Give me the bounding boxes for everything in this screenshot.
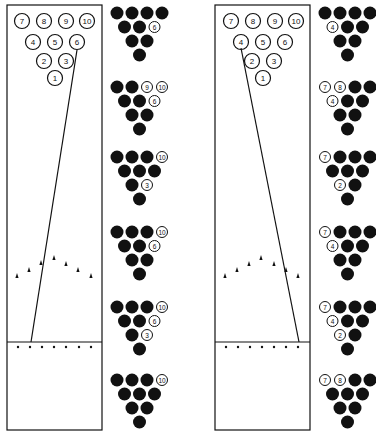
- pin-6: 6: [278, 35, 293, 50]
- standing-pin-number: 8: [338, 84, 342, 91]
- knocked-pin-icon: [126, 329, 139, 342]
- standing-pin-number: 6: [153, 243, 157, 250]
- knocked-pin-icon: [111, 151, 124, 164]
- knocked-pin-icon: [341, 240, 354, 253]
- knocked-pin-icon: [118, 21, 131, 34]
- knocked-pin-icon: [349, 402, 362, 415]
- knocked-pin-icon: [126, 35, 139, 48]
- target-arrow-icon: [247, 261, 250, 266]
- approach-dot-icon: [285, 346, 287, 348]
- knocked-pin-icon: [148, 165, 161, 178]
- knocked-pin-icon: [356, 95, 369, 108]
- lane-outline: [7, 5, 102, 430]
- target-arrow-icon: [76, 267, 79, 272]
- knocked-pin-icon: [118, 165, 131, 178]
- knocked-pin-icon: [356, 315, 369, 328]
- knocked-pin-icon: [341, 193, 354, 206]
- knocked-pin-icon: [133, 343, 146, 356]
- approach-dot-icon: [29, 346, 31, 348]
- standing-pin-number: 7: [323, 84, 327, 91]
- standing-pin-number: 10: [158, 154, 166, 161]
- knocked-pin-icon: [341, 95, 354, 108]
- spare-rack-left-column-3: 103: [111, 151, 168, 206]
- spare-rack-right-column-3: 72: [320, 151, 376, 206]
- pin-number: 2: [42, 57, 47, 66]
- knocked-pin-icon: [111, 7, 124, 20]
- standing-pin-number: 6: [153, 24, 157, 31]
- bowling-spare-diagram: 7891045623178910456231691061031061063104…: [0, 0, 376, 440]
- standing-pin-number: 7: [323, 229, 327, 236]
- knocked-pin-icon: [341, 343, 354, 356]
- standing-pin-number: 3: [145, 332, 149, 339]
- knocked-pin-icon: [133, 123, 146, 136]
- knocked-pin-icon: [126, 301, 139, 314]
- knocked-pin-icon: [349, 35, 362, 48]
- knocked-pin-icon: [334, 254, 347, 267]
- pin-8: 8: [37, 14, 52, 29]
- knocked-pin-icon: [326, 165, 339, 178]
- knocked-pin-icon: [133, 21, 146, 34]
- knocked-pin-icon: [141, 109, 154, 122]
- spare-rack-right-column-1: 4: [319, 7, 376, 62]
- knocked-pin-icon: [349, 81, 362, 94]
- knocked-pin-icon: [141, 7, 154, 20]
- knocked-pin-icon: [349, 151, 362, 164]
- lane-outline: [215, 5, 310, 430]
- knocked-pin-icon: [341, 123, 354, 136]
- approach-dot-icon: [90, 346, 92, 348]
- knocked-pin-icon: [118, 240, 131, 253]
- knocked-pin-icon: [364, 226, 376, 239]
- target-arrow-icon: [272, 261, 275, 266]
- approach-dot-icon: [78, 346, 80, 348]
- pin-2: 2: [245, 54, 260, 69]
- standing-pin-number: 8: [338, 377, 342, 384]
- standing-pin-number: 7: [323, 304, 327, 311]
- knocked-pin-icon: [341, 21, 354, 34]
- knocked-pin-icon: [341, 315, 354, 328]
- knocked-pin-icon: [349, 109, 362, 122]
- pin-number: 3: [64, 57, 69, 66]
- target-arrow-icon: [235, 267, 238, 272]
- spare-rack-right-column-4: 74: [320, 226, 376, 281]
- pin-3: 3: [267, 54, 282, 69]
- standing-pin-number: 4: [331, 318, 335, 325]
- approach-dot-icon: [17, 346, 19, 348]
- knocked-pin-icon: [148, 388, 161, 401]
- target-arrow-icon: [15, 273, 18, 278]
- pin-5: 5: [256, 35, 271, 50]
- pin-number: 9: [64, 17, 69, 26]
- knocked-pin-icon: [111, 301, 124, 314]
- knocked-pin-icon: [364, 81, 376, 94]
- spare-rack-right-column-5: 742: [320, 301, 376, 356]
- pin-number: 6: [283, 38, 288, 47]
- pin-1: 1: [48, 71, 63, 86]
- pin-number: 1: [53, 74, 58, 83]
- standing-pin-number: 7: [323, 154, 327, 161]
- pin-7: 7: [15, 14, 30, 29]
- approach-dot-icon: [249, 346, 251, 348]
- approach-dot-icon: [41, 346, 43, 348]
- knocked-pin-icon: [349, 329, 362, 342]
- pin-number: 5: [53, 38, 58, 47]
- knocked-pin-icon: [141, 301, 154, 314]
- knocked-pin-icon: [133, 315, 146, 328]
- knocked-pin-icon: [111, 226, 124, 239]
- knocked-pin-icon: [111, 374, 124, 387]
- pin-number: 8: [42, 17, 47, 26]
- spare-rack-left-column-6: 10: [111, 374, 168, 429]
- knocked-pin-icon: [141, 374, 154, 387]
- target-arrow-icon: [39, 260, 42, 265]
- approach-dot-icon: [297, 346, 299, 348]
- knocked-pin-icon: [356, 388, 369, 401]
- pin-9: 9: [268, 14, 283, 29]
- pin-9: 9: [59, 14, 74, 29]
- pin-4: 4: [234, 35, 249, 50]
- knocked-pin-icon: [334, 402, 347, 415]
- knocked-pin-icon: [364, 7, 376, 20]
- approach-dot-icon: [225, 346, 227, 348]
- approach-dot-icon: [65, 346, 67, 348]
- standing-pin-number: 10: [158, 229, 166, 236]
- knocked-pin-icon: [126, 7, 139, 20]
- knocked-pin-icon: [334, 301, 347, 314]
- pin-4: 4: [26, 35, 41, 50]
